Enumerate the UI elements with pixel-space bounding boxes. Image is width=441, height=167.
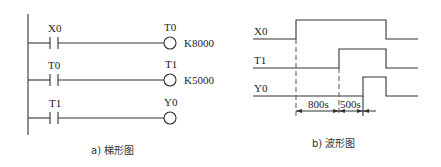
diagram-canvas: X0 T0 K8000 T0 T1 K5000 T1 Y0 a) 梯形图: [0, 0, 441, 167]
rung-2: T0 T1 K5000: [28, 58, 214, 86]
waveform-y0: [253, 77, 418, 96]
rung-3: T1 Y0: [28, 96, 178, 124]
ladder-caption: a) 梯形图: [91, 144, 134, 156]
signal-label: Y0: [254, 82, 268, 94]
signal-label: X0: [254, 25, 268, 37]
waveform-t1: [253, 49, 418, 68]
arrow-icon: [296, 109, 302, 113]
coil-label: Y0: [164, 96, 178, 108]
coil-label: T1: [165, 58, 177, 70]
rung-1: X0 T0 K8000: [28, 21, 214, 49]
waveform-caption: b) 波形图: [312, 137, 355, 149]
coil-icon: [164, 74, 176, 86]
contact-label: T1: [49, 97, 61, 109]
waveform-diagram: X0 T1 Y0 800s 500s b) 波形图: [253, 20, 418, 149]
ladder-diagram: X0 T0 K8000 T0 T1 K5000 T1 Y0 a) 梯形图: [28, 14, 214, 156]
coil-label: T0: [164, 21, 177, 33]
waveform-x0: [253, 20, 418, 39]
arrow-icon: [333, 109, 339, 113]
coil-icon: [164, 37, 176, 49]
coil-setting: K8000: [184, 37, 214, 49]
interval-label: 800s: [308, 98, 329, 110]
interval-label: 500s: [340, 98, 361, 110]
coil-setting: K5000: [184, 74, 214, 86]
arrow-icon: [363, 109, 369, 113]
contact-label: X0: [48, 22, 62, 34]
coil-icon: [164, 112, 176, 124]
contact-label: T0: [48, 59, 61, 71]
signal-label: T1: [254, 54, 266, 66]
